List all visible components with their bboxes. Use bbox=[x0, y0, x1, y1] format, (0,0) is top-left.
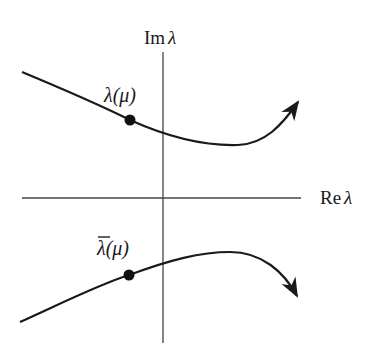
upper-curve-label: λ(μ) bbox=[103, 84, 136, 107]
svg-text:λ(μ): λ(μ) bbox=[96, 237, 129, 260]
diagram-canvas: Imλ Reλ λ(μ) λ(μ) bbox=[0, 0, 382, 353]
real-axis-label: Reλ bbox=[320, 187, 352, 208]
imaginary-axis-label: Imλ bbox=[144, 27, 176, 48]
lower-conjugate-eigenvalue-curve bbox=[20, 252, 297, 322]
upper-eigenvalue-curve bbox=[22, 72, 298, 145]
upper-eigenvalue-point bbox=[125, 115, 136, 126]
lower-conjugate-eigenvalue-point bbox=[124, 270, 135, 281]
lower-curve-label: λ(μ) bbox=[96, 237, 129, 260]
